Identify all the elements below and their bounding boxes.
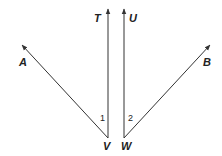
angle-2-label: 2 (128, 113, 133, 123)
ray-wb (124, 45, 210, 138)
angle-1-label: 1 (100, 113, 105, 123)
label-u: U (129, 12, 138, 24)
label-v: V (103, 140, 112, 152)
label-t: T (94, 12, 102, 24)
label-b: B (203, 56, 211, 68)
geometry-diagram: T U A B V W 1 2 (0, 0, 222, 156)
ray-va (22, 45, 108, 138)
label-a: A (18, 56, 27, 68)
label-w: W (121, 140, 133, 152)
